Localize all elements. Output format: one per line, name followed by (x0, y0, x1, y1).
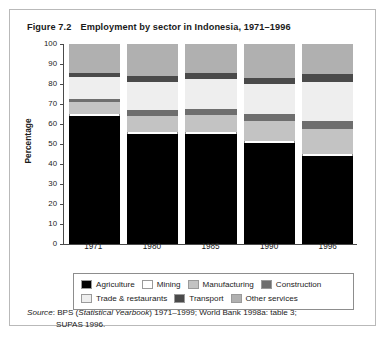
legend-row: AgricultureMiningManufacturingConstructi… (81, 278, 346, 290)
bar-group (185, 44, 236, 244)
y-tick-label: 40 (48, 159, 57, 168)
source-text-pre: BPS ( (55, 308, 78, 317)
y-tick-label: 10 (48, 219, 57, 228)
legend-swatch-icon (142, 280, 153, 289)
y-tick-label: 20 (48, 199, 57, 208)
y-tick-label: 30 (48, 179, 57, 188)
source-word: Source (27, 308, 53, 317)
source-publication: Statistical Yearbook (78, 308, 149, 317)
legend-row: Trade & restaurantsTransportOther servic… (81, 292, 346, 304)
y-tick-label: 60 (48, 119, 57, 128)
y-tick-label: 70 (48, 99, 57, 108)
bar-segment-trade-restaurants (244, 84, 295, 114)
bar-group (127, 44, 178, 244)
legend-swatch-icon (231, 294, 242, 303)
bar-segment-agriculture (302, 156, 353, 244)
bar-group (69, 44, 120, 244)
bar-segment-other-services (69, 44, 120, 73)
bar-segment-trade-restaurants (185, 79, 236, 109)
y-tick-label: 100 (44, 39, 57, 48)
bar-segment-other-services (185, 44, 236, 73)
y-tick-mark (60, 224, 64, 225)
y-tick-label: 90 (48, 59, 57, 68)
x-axis-label: 1996 (298, 242, 357, 251)
bar-segment-other-services (244, 44, 295, 78)
legend-label: Mining (157, 280, 181, 289)
bar-stack (69, 44, 120, 244)
bar-segment-agriculture (244, 143, 295, 244)
figure-number: Figure 7.2 (27, 22, 71, 32)
y-tick-mark (60, 164, 64, 165)
y-tick-label: 0 (53, 239, 57, 248)
bar-segment-construction (302, 121, 353, 129)
y-tick-mark (60, 204, 64, 205)
bar-segment-manufacturing (185, 115, 236, 132)
source-note: Source: BPS (Statistical Yearbook) 1971–… (27, 307, 362, 330)
x-axis-label: 1990 (240, 242, 299, 251)
source-text-post: ) 1971–1999; World Bank 1998a: table 3; (149, 308, 296, 317)
legend-label: Construction (276, 280, 321, 289)
bar-segment-manufacturing (302, 129, 353, 154)
bar-segment-manufacturing (69, 102, 120, 114)
x-axis-label: 1985 (181, 242, 240, 251)
y-tick-mark (60, 104, 64, 105)
y-tick-mark (60, 144, 64, 145)
bar-group (244, 44, 295, 244)
legend-label: Transport (189, 294, 223, 303)
legend-entry-construction[interactable]: Construction (261, 280, 321, 289)
legend-swatch-icon (188, 280, 199, 289)
bar-segment-other-services (127, 44, 178, 76)
y-tick-mark (60, 184, 64, 185)
legend-label: Manufacturing (203, 280, 254, 289)
legend-label: Trade & restaurants (96, 294, 167, 303)
bar-stack (185, 44, 236, 244)
chart-legend: AgricultureMiningManufacturingConstructi… (73, 273, 354, 310)
source-line-2: SUPAS 1996. (27, 319, 362, 331)
bar-segment-trade-restaurants (302, 82, 353, 121)
bar-stack (302, 44, 353, 244)
bar-segment-agriculture (185, 134, 236, 244)
legend-swatch-icon (81, 294, 92, 303)
bars-layer (65, 44, 357, 244)
figure-card: Figure 7.2Employment by sector in Indone… (9, 9, 376, 326)
chart-plot-area: 1009080706050403020100 (63, 44, 357, 245)
bar-segment-manufacturing (127, 116, 178, 132)
bar-stack (127, 44, 178, 244)
bar-segment-manufacturing (244, 121, 295, 141)
bar-segment-trade-restaurants (127, 82, 178, 110)
y-axis-title: Percentage (23, 96, 33, 186)
bar-segment-transport (302, 74, 353, 82)
legend-label: Other services (246, 294, 298, 303)
legend-swatch-icon (174, 294, 185, 303)
legend-entry-other-services[interactable]: Other services (231, 294, 298, 303)
bar-segment-other-services (302, 44, 353, 74)
bar-segment-agriculture (69, 116, 120, 244)
y-tick-label: 80 (48, 79, 57, 88)
bar-segment-agriculture (127, 134, 178, 244)
legend-entry-transport[interactable]: Transport (174, 294, 223, 303)
bar-group (302, 44, 353, 244)
y-tick-label: 50 (48, 139, 57, 148)
legend-entry-trade-restaurants[interactable]: Trade & restaurants (81, 294, 167, 303)
chart-plot-wrapper: Percentage 1009080706050403020100 197119… (27, 38, 359, 266)
legend-swatch-icon (261, 280, 272, 289)
bar-segment-construction (244, 114, 295, 121)
bar-stack (244, 44, 295, 244)
bar-segment-trade-restaurants (69, 77, 120, 99)
legend-swatch-icon (81, 280, 92, 289)
y-tick-mark (60, 84, 64, 85)
y-tick-mark (60, 124, 64, 125)
x-axis-label: 1971 (64, 242, 123, 251)
y-tick-mark (60, 44, 64, 45)
legend-label: Agriculture (96, 280, 135, 289)
legend-entry-mining[interactable]: Mining (142, 280, 181, 289)
legend-entry-agriculture[interactable]: Agriculture (81, 280, 135, 289)
figure-title: Figure 7.2Employment by sector in Indone… (27, 22, 291, 32)
x-axis-label: 1980 (123, 242, 182, 251)
y-tick-mark (60, 64, 64, 65)
legend-entry-manufacturing[interactable]: Manufacturing (188, 280, 254, 289)
figure-title-text: Employment by sector in Indonesia, 1971–… (80, 22, 290, 32)
